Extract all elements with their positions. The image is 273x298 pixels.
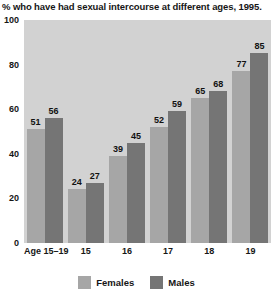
- bar-value-label: 59: [166, 98, 188, 110]
- x-axis-tick: 15: [65, 245, 106, 258]
- chart-legend: FemalesMales: [0, 273, 273, 291]
- y-axis-tick: 40: [9, 148, 19, 160]
- legend-item-females[interactable]: Females: [78, 276, 134, 289]
- bar-males: [250, 53, 268, 243]
- legend-label: Males: [168, 276, 194, 289]
- bar-group: 5259: [150, 20, 186, 243]
- bar-females: [68, 189, 86, 243]
- bar-group: 3945: [109, 20, 145, 243]
- bar-group: 2427: [68, 20, 104, 243]
- legend-swatch-icon: [78, 276, 91, 289]
- bar-value-label: 52: [148, 114, 170, 126]
- x-axis-tick: 19: [230, 245, 271, 258]
- y-axis: 020406080100: [0, 14, 21, 250]
- bar-males: [86, 183, 104, 243]
- bar-value-label: 77: [230, 58, 252, 70]
- y-axis-tick: 20: [9, 192, 19, 204]
- y-axis-tick: 60: [9, 103, 19, 115]
- bar-value-label: 27: [84, 170, 106, 182]
- bar-group: 7785: [232, 20, 268, 243]
- bar-males: [45, 118, 63, 243]
- bar-males: [209, 91, 227, 243]
- bar-value-label: 51: [25, 116, 47, 128]
- x-axis-tick: 18: [189, 245, 230, 258]
- bar-group: 5156: [27, 20, 63, 243]
- bar-males: [127, 143, 145, 243]
- bar-value-label: 39: [107, 143, 129, 155]
- bar-females: [150, 127, 168, 243]
- legend-item-males[interactable]: Males: [150, 276, 194, 289]
- bar-females: [191, 98, 209, 243]
- bar-females: [109, 156, 127, 243]
- x-axis-tick: Age 15–19: [24, 245, 65, 258]
- bar-value-label: 45: [125, 130, 147, 142]
- bar-females: [232, 71, 250, 243]
- bar-females: [27, 129, 45, 243]
- x-axis-tick: 17: [148, 245, 189, 258]
- bar-males: [168, 111, 186, 243]
- bar-value-label: 56: [43, 105, 65, 117]
- x-axis-tick: 16: [106, 245, 147, 258]
- x-axis: Age 15–191516171819: [24, 245, 271, 258]
- bar-value-label: 68: [207, 78, 229, 90]
- y-axis-tick: 80: [9, 59, 19, 71]
- legend-swatch-icon: [150, 276, 163, 289]
- legend-label: Females: [96, 276, 134, 289]
- bar-groups: 515624273945525965687785: [24, 20, 271, 243]
- chart-title: % who have had sexual intercourse at dif…: [2, 0, 273, 13]
- y-axis-tick: 0: [14, 237, 19, 249]
- bar-value-label: 85: [248, 40, 270, 52]
- bar-group: 6568: [191, 20, 227, 243]
- bar-chart: % who have had sexual intercourse at dif…: [0, 0, 273, 298]
- y-axis-tick: 100: [4, 14, 19, 26]
